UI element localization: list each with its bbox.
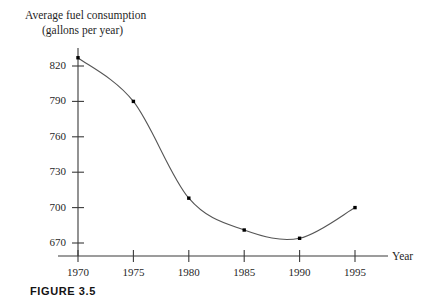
x-tick-label: 1980 — [169, 266, 209, 278]
data-point-marker — [132, 100, 135, 103]
axes-group — [58, 48, 388, 256]
x-tick-label: 1995 — [335, 266, 375, 278]
y-tick-label: 730 — [36, 165, 66, 177]
y-tick-label: 760 — [36, 130, 66, 142]
chart-plot-area — [0, 0, 430, 307]
y-tick-label: 790 — [36, 94, 66, 106]
x-tick-label: 1990 — [280, 266, 320, 278]
data-point-marker — [76, 56, 79, 59]
x-tick-label: 1985 — [224, 266, 264, 278]
x-tick-label: 1970 — [58, 266, 98, 278]
data-series-curve — [78, 58, 355, 240]
data-point-marker — [298, 237, 301, 240]
figure-caption: FIGURE 3.5 — [30, 285, 96, 297]
figure-container: Average fuel consumption (gallons per ye… — [0, 0, 430, 307]
x-tick-label: 1975 — [113, 266, 153, 278]
y-tick-label: 700 — [36, 201, 66, 213]
y-tick-label: 670 — [36, 236, 66, 248]
y-tick-label: 820 — [36, 59, 66, 71]
data-point-marker — [353, 206, 356, 209]
data-point-marker — [243, 228, 246, 231]
data-point-marker — [187, 196, 190, 199]
data-point-markers — [76, 56, 356, 240]
